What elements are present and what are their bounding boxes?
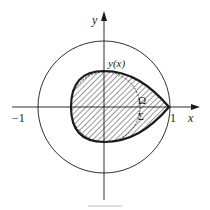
region-label: Ω <box>138 94 146 106</box>
tick-label-one: 1 <box>170 111 176 125</box>
x-axis-arrow-icon <box>191 104 200 110</box>
figure-canvas: y x −1 1 y(x) Ω Σ <box>0 0 210 210</box>
y-axis-arrow-icon <box>101 11 107 21</box>
y-axis-label: y <box>91 13 98 27</box>
caption-remnant <box>88 205 122 207</box>
boundary-label: Σ <box>138 111 144 122</box>
curve-label: y(x) <box>107 57 125 70</box>
tick-label-neg-one: −1 <box>12 111 25 125</box>
region-omega-fill <box>71 71 169 142</box>
x-axis-label: x <box>187 111 194 125</box>
